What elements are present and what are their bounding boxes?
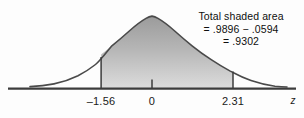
annotation-line-2: = .9896 − .0594 — [182, 23, 300, 36]
axis-label-z: z — [286, 95, 300, 106]
annotation-line-3: = .9302 — [182, 35, 300, 48]
tick-label-zero: 0 — [132, 95, 172, 107]
shaded-area-annotation: Total shaded area = .9896 − .0594 = .930… — [182, 10, 300, 48]
annotation-line-1: Total shaded area — [182, 10, 300, 23]
normal-distribution-figure: –1.56 0 2.31 z Total shaded area = .9896… — [0, 0, 304, 118]
tick-label-left: –1.56 — [76, 95, 126, 107]
tick-label-right: 2.31 — [209, 95, 257, 107]
